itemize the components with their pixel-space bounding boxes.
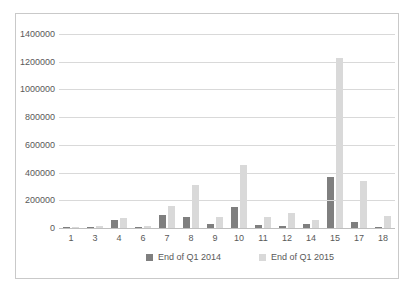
bar-end-of-q1-2014 bbox=[351, 222, 358, 228]
bar-group: 7 bbox=[155, 34, 179, 228]
bar-end-of-q1-2015 bbox=[168, 206, 175, 228]
bar-group: 9 bbox=[203, 34, 227, 228]
page: 0200000400000600000800000100000012000001… bbox=[0, 0, 415, 294]
y-axis-label: 200000 bbox=[25, 195, 55, 205]
bar-end-of-q1-2014 bbox=[111, 220, 118, 228]
legend: End of Q1 2014End of Q1 2015 bbox=[59, 252, 395, 262]
bar-end-of-q1-2014 bbox=[159, 215, 166, 228]
bar-group: 1 bbox=[59, 34, 83, 228]
bar-end-of-q1-2014 bbox=[87, 227, 94, 228]
y-axis-label: 600000 bbox=[25, 140, 55, 150]
bar-end-of-q1-2014 bbox=[231, 207, 238, 228]
bar-end-of-q1-2015 bbox=[144, 226, 151, 228]
chart-frame: 0200000400000600000800000100000012000001… bbox=[15, 13, 399, 279]
plot-area: 134678910111214151718 bbox=[59, 34, 395, 229]
x-axis-label: 17 bbox=[347, 233, 371, 243]
bar-end-of-q1-2015 bbox=[312, 220, 319, 228]
x-axis-label: 14 bbox=[299, 233, 323, 243]
bar-end-of-q1-2015 bbox=[336, 58, 343, 228]
bar-end-of-q1-2014 bbox=[279, 226, 286, 228]
bar-group: 11 bbox=[251, 34, 275, 228]
gridline bbox=[59, 173, 395, 174]
gridline bbox=[59, 200, 395, 201]
y-axis-label: 1200000 bbox=[20, 57, 55, 67]
bar-end-of-q1-2014 bbox=[135, 227, 142, 228]
bar-group: 15 bbox=[323, 34, 347, 228]
x-axis-label: 8 bbox=[179, 233, 203, 243]
x-axis-label: 1 bbox=[59, 233, 83, 243]
x-axis-label: 9 bbox=[203, 233, 227, 243]
bar-end-of-q1-2014 bbox=[255, 225, 262, 228]
gridline bbox=[59, 62, 395, 63]
bar-end-of-q1-2014 bbox=[327, 177, 334, 228]
bar-end-of-q1-2015 bbox=[360, 181, 367, 228]
legend-swatch-icon bbox=[259, 254, 266, 261]
legend-item: End of Q1 2015 bbox=[259, 252, 334, 262]
bar-end-of-q1-2014 bbox=[207, 224, 214, 228]
x-axis-label: 7 bbox=[155, 233, 179, 243]
y-axis-label: 400000 bbox=[25, 168, 55, 178]
y-axis-label: 1000000 bbox=[20, 84, 55, 94]
legend-item: End of Q1 2014 bbox=[146, 252, 221, 262]
x-axis-label: 6 bbox=[131, 233, 155, 243]
bar-end-of-q1-2015 bbox=[72, 227, 79, 228]
bar-end-of-q1-2014 bbox=[303, 224, 310, 228]
bar-group: 8 bbox=[179, 34, 203, 228]
bar-group: 17 bbox=[347, 34, 371, 228]
x-axis-label: 10 bbox=[227, 233, 251, 243]
y-axis-label: 800000 bbox=[25, 112, 55, 122]
x-axis-label: 15 bbox=[323, 233, 347, 243]
y-axis: 0200000400000600000800000100000012000001… bbox=[16, 34, 55, 228]
x-axis-label: 18 bbox=[371, 233, 395, 243]
bar-group: 14 bbox=[299, 34, 323, 228]
gridline bbox=[59, 89, 395, 90]
bar-end-of-q1-2015 bbox=[96, 226, 103, 228]
bar-group: 18 bbox=[371, 34, 395, 228]
bar-end-of-q1-2015 bbox=[264, 217, 271, 228]
gridline bbox=[59, 117, 395, 118]
bar-end-of-q1-2015 bbox=[240, 165, 247, 228]
bar-group: 10 bbox=[227, 34, 251, 228]
bar-end-of-q1-2014 bbox=[183, 217, 190, 228]
bar-end-of-q1-2014 bbox=[63, 227, 70, 228]
bar-end-of-q1-2015 bbox=[120, 218, 127, 228]
bar-group: 12 bbox=[275, 34, 299, 228]
legend-swatch-icon bbox=[146, 254, 153, 261]
gridline bbox=[59, 34, 395, 35]
legend-label: End of Q1 2015 bbox=[271, 252, 334, 262]
bar-end-of-q1-2015 bbox=[384, 216, 391, 228]
bar-groups: 134678910111214151718 bbox=[59, 34, 395, 228]
bar-group: 3 bbox=[83, 34, 107, 228]
x-axis-label: 3 bbox=[83, 233, 107, 243]
y-axis-label: 1400000 bbox=[20, 29, 55, 39]
x-axis-label: 11 bbox=[251, 233, 275, 243]
x-axis-label: 12 bbox=[275, 233, 299, 243]
bar-group: 4 bbox=[107, 34, 131, 228]
bar-end-of-q1-2014 bbox=[375, 227, 382, 228]
y-axis-label: 0 bbox=[50, 223, 55, 233]
bar-group: 6 bbox=[131, 34, 155, 228]
bar-end-of-q1-2015 bbox=[216, 217, 223, 228]
gridline bbox=[59, 145, 395, 146]
legend-label: End of Q1 2014 bbox=[158, 252, 221, 262]
bar-end-of-q1-2015 bbox=[288, 213, 295, 228]
bar-end-of-q1-2015 bbox=[192, 185, 199, 228]
x-axis-label: 4 bbox=[107, 233, 131, 243]
